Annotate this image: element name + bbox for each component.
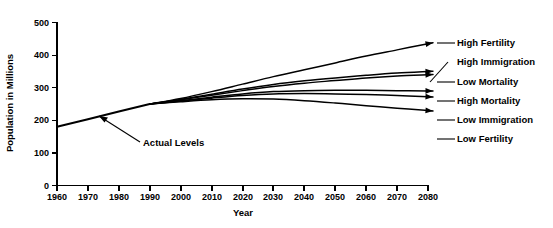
series-label-high-fertility: High Fertility — [457, 37, 516, 48]
x-axis-title: Year — [233, 207, 253, 218]
x-axis-ticks: 1960 1970 1980 1990 2000 2010 2020 2030 … — [47, 186, 438, 202]
x-tick-label-2060: 2060 — [356, 192, 376, 202]
y-axis-ticks: 0 100 200 300 400 500 — [34, 18, 57, 191]
series-arrowhead — [425, 94, 433, 100]
x-tick-label-2040: 2040 — [294, 192, 314, 202]
leader-line-high-immigration — [430, 62, 448, 82]
series-label-low-mortality: Low Mortality — [457, 76, 519, 87]
series-label-high-mortality: High Mortality — [457, 95, 521, 106]
x-tick-label-1960: 1960 — [47, 192, 67, 202]
population-projection-chart: 0 100 200 300 400 500 1960 1970 1980 199… — [0, 0, 553, 228]
series-paths — [57, 43, 433, 127]
axes-group — [57, 22, 429, 186]
x-tick-label-2030: 2030 — [263, 192, 283, 202]
x-tick-label-2070: 2070 — [387, 192, 407, 202]
x-tick-label-2020: 2020 — [233, 192, 253, 202]
x-tick-label-1980: 1980 — [109, 192, 129, 202]
y-tick-label-500: 500 — [34, 18, 49, 28]
series-arrowhead — [425, 88, 433, 94]
x-tick-label-1970: 1970 — [78, 192, 98, 202]
y-axis-title: Population in Millions — [4, 54, 15, 152]
x-tick-label-1990: 1990 — [140, 192, 160, 202]
y-tick-label-400: 400 — [34, 50, 49, 60]
annotation-label-actual-levels: Actual Levels — [143, 137, 204, 148]
series-line-actual-levels — [57, 104, 150, 127]
series-label-low-fertility: Low Fertility — [457, 133, 514, 144]
x-tick-label-2000: 2000 — [171, 192, 191, 202]
arrowhead-actual-levels — [99, 116, 108, 123]
series-arrowheads — [425, 41, 433, 113]
series-line-low-fertility — [150, 99, 433, 111]
chart-canvas: 0 100 200 300 400 500 1960 1970 1980 199… — [0, 0, 553, 228]
x-tick-label-2080: 2080 — [418, 192, 438, 202]
y-tick-label-300: 300 — [34, 83, 49, 93]
actual-levels-annotation: Actual Levels — [99, 116, 204, 148]
x-tick-label-2010: 2010 — [202, 192, 222, 202]
series-labels: High Fertility High Immigration Low Mort… — [457, 37, 535, 144]
y-tick-label-200: 200 — [34, 115, 49, 125]
y-tick-label-0: 0 — [44, 181, 49, 191]
series-label-high-immigration: High Immigration — [457, 56, 535, 67]
x-tick-label-2050: 2050 — [325, 192, 345, 202]
series-label-low-immigration: Low Immigration — [457, 114, 533, 125]
y-tick-label-100: 100 — [34, 148, 49, 158]
